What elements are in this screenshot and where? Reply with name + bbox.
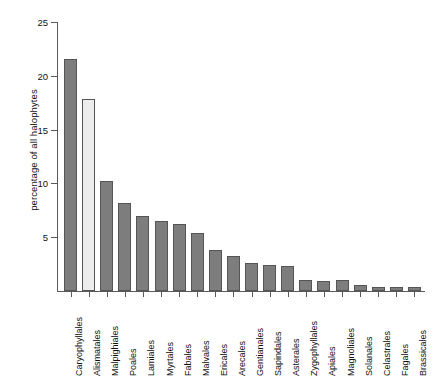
y-axis-tick-label: 25: [37, 17, 48, 28]
x-axis-tick-mark: [396, 292, 397, 297]
bar: [136, 216, 149, 291]
y-axis-tick: 10: [51, 183, 57, 184]
x-axis-tick-label: Zygophyllales: [309, 321, 319, 376]
x-axis-tick-mark: [270, 292, 271, 297]
x-axis-tick-label: Fagales: [400, 344, 410, 376]
x-axis-labels: CaryophyllalesAlismatalesMalpighialesPoa…: [57, 300, 438, 379]
x-axis-tick-label: Magnoliales: [346, 328, 356, 376]
x-axis-tick-mark: [252, 292, 253, 297]
x-axis-tick-label: Celastrales: [382, 331, 392, 376]
bar: [245, 263, 258, 291]
bar: [390, 287, 403, 291]
bar: [281, 266, 294, 291]
x-axis-tick-mark: [107, 292, 108, 297]
bar: [317, 281, 330, 291]
y-axis-tick: 25: [51, 22, 57, 23]
x-axis-tick-label: Apiales: [327, 346, 337, 376]
y-axis-tick-mark: [51, 76, 57, 77]
bar: [155, 221, 168, 291]
x-axis-tick-mark: [89, 292, 90, 297]
bar: [354, 285, 367, 291]
x-axis-tick-label: Gentianales: [255, 328, 265, 376]
x-axis-tick-label: Fabales: [183, 344, 193, 376]
plot-area: 510152025: [57, 22, 425, 292]
y-axis-tick-mark: [51, 237, 57, 238]
x-axis-tick-label: Solanales: [364, 336, 374, 376]
x-axis-tick-label: Arecales: [237, 341, 247, 376]
x-axis-tick-label: Lamiales: [146, 340, 156, 376]
x-axis-tick-mark: [125, 292, 126, 297]
x-axis-tick-mark: [179, 292, 180, 297]
x-axis-tick-label: Malpighiales: [110, 326, 120, 376]
bar: [372, 287, 385, 291]
y-axis-title: percentage of all halophytes: [22, 0, 44, 300]
y-axis-tick-mark: [51, 183, 57, 184]
x-axis-tick-mark: [215, 292, 216, 297]
y-axis-tick-label: 5: [43, 232, 48, 243]
x-axis-tick-mark: [288, 292, 289, 297]
x-axis-tick-mark: [306, 292, 307, 297]
y-axis-tick-label: 20: [37, 70, 48, 81]
x-axis-tick-label: Poales: [128, 348, 138, 376]
bar: [100, 181, 113, 291]
x-axis-tick-mark: [378, 292, 379, 297]
bar: [408, 287, 421, 291]
y-axis-tick: [51, 291, 57, 292]
x-axis-tick-mark: [161, 292, 162, 297]
x-axis-tick-label: Sapindales: [273, 331, 283, 376]
bar-chart-figure: percentage of all halophytes 510152025 C…: [0, 0, 438, 379]
x-axis-tick-mark: [360, 292, 361, 297]
x-axis-tick-label: Alismatales: [92, 330, 102, 376]
y-axis-tick: 5: [51, 237, 57, 238]
y-axis-tick: 20: [51, 76, 57, 77]
x-axis-tick-label: Ericales: [219, 344, 229, 376]
bar: [191, 233, 204, 291]
x-axis-tick-mark: [324, 292, 325, 297]
bar: [209, 250, 222, 291]
x-axis-tick-label: Asterales: [291, 338, 301, 376]
x-axis-tick-label: Caryophyllales: [74, 317, 84, 376]
bar: [299, 280, 312, 291]
x-axis-tick-label: Myrtales: [165, 342, 175, 376]
bar: [82, 99, 95, 291]
bar: [118, 203, 131, 291]
y-axis-tick: 15: [51, 130, 57, 131]
x-axis-tick-mark: [71, 292, 72, 297]
x-axis-tick-mark: [197, 292, 198, 297]
y-axis-tick-label: 15: [37, 124, 48, 135]
x-axis-tick-label: Brassicales: [418, 330, 428, 376]
x-axis-line: [57, 291, 425, 292]
x-axis-tick-mark: [143, 292, 144, 297]
x-axis-tick-mark: [342, 292, 343, 297]
bar: [64, 59, 77, 291]
bar: [263, 265, 276, 291]
x-axis-tick-label: Malvales: [201, 340, 211, 376]
bar: [173, 224, 186, 291]
y-axis-tick-mark: [51, 130, 57, 131]
y-axis-line: [57, 22, 58, 292]
bar: [336, 280, 349, 291]
bar: [227, 256, 240, 292]
y-axis-tick-mark: [51, 22, 57, 23]
x-axis-tick-mark: [414, 292, 415, 297]
y-axis-tick-label: 10: [37, 178, 48, 189]
x-axis-tick-mark: [233, 292, 234, 297]
